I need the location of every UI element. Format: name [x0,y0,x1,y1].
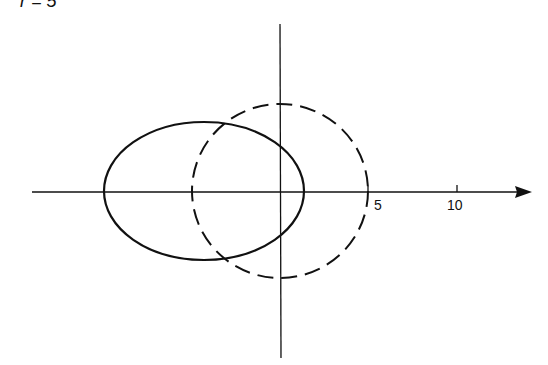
diagram-svg [0,0,548,365]
solid-ellipse [104,122,304,260]
y-axis [280,24,281,358]
x-tick-label-10: 10 [447,197,463,213]
x-axis-arrowhead-icon [515,186,532,198]
x-tick-label-5: 5 [374,197,382,213]
diagram-canvas: r = 5 5 10 [0,0,548,365]
